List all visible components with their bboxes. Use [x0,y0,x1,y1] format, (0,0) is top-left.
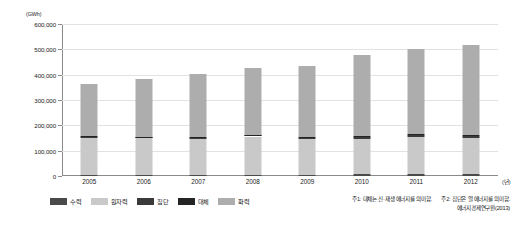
stacked-bar[interactable] [462,45,479,176]
bar-group [226,24,281,176]
x-tick-label: 2006 [117,178,172,185]
bar-segment-원자력 [353,139,370,175]
bar-segment-화력 [135,79,152,136]
stacked-bar[interactable] [244,68,261,176]
bar-group [335,24,390,176]
legend-swatch-icon [137,198,154,205]
legend-item-원자력[interactable]: 원자력 [91,197,128,206]
bar-segment-원자력 [135,138,152,174]
x-tick-label: 2011 [389,178,444,185]
legend-swatch-icon [91,198,108,205]
bar-segment-수력 [462,174,479,176]
bar-segment-집단 [81,137,98,138]
bar-group [117,24,172,176]
bar-group [444,24,499,176]
bar-segment-수력 [190,175,207,176]
x-tick-label: 2010 [335,178,390,185]
bar-segment-집단 [190,138,207,139]
stacked-bar[interactable] [353,55,370,176]
plot-area: 0100,000200,000300,000400,000500,000600,… [62,24,498,176]
y-tick-mark [58,176,62,177]
y-tick-label: 500,000 [34,46,56,53]
legend-item-대체[interactable]: 대체 [178,197,210,206]
bar-segment-수력 [408,174,425,176]
bar-segment-원자력 [408,137,425,174]
bar-segment-수력 [135,175,152,176]
bar-segment-원자력 [299,139,316,175]
x-tick-label: 2008 [226,178,281,185]
bar-segment-수력 [353,174,370,176]
bar-segment-원자력 [190,139,207,175]
bar-segment-집단 [353,137,370,139]
legend-swatch-icon [178,198,195,205]
y-tick-label: 600,000 [34,21,56,28]
bar-segment-대체 [299,137,316,138]
bar-segment-대체 [353,136,370,137]
chart-legend: 수력원자력집단대체화력 [50,197,250,206]
bar-segment-수력 [244,175,261,176]
bar-segment-화력 [353,55,370,137]
x-tick-label: 2007 [171,178,226,185]
bar-segment-집단 [244,135,261,136]
note-1: 주1: 대체는 신·재생 에너지를 의미함. [352,196,432,202]
legend-label: 집단 [157,197,169,206]
bar-segment-대체 [244,135,261,136]
legend-label: 수력 [70,197,82,206]
x-tick-label: 2012 [444,178,499,185]
stacked-bar[interactable] [190,74,207,176]
x-axis-unit-label: (년) [502,178,511,186]
y-tick-label: 200,000 [34,122,56,129]
bar-group [389,24,444,176]
legend-swatch-icon [218,198,235,205]
bar-segment-집단 [462,136,479,138]
bar-segment-대체 [462,135,479,136]
bar-segment-화력 [462,45,479,134]
bar-segment-수력 [299,175,316,176]
stacked-bar[interactable] [81,84,98,176]
bar-segment-화력 [408,49,425,134]
bar-group [62,24,117,176]
x-tick-label: 2009 [280,178,335,185]
bar-segment-수력 [81,175,98,176]
legend-label: 화력 [238,197,250,206]
note-2: 주2: 집단은 열 에너지를 의미함. [441,196,510,202]
legend-item-집단[interactable]: 집단 [137,197,169,206]
bar-segment-화력 [244,68,261,135]
legend-label: 원자력 [111,197,128,206]
legend-item-수력[interactable]: 수력 [50,197,82,206]
y-tick-label: 400,000 [34,71,56,78]
bar-segment-화력 [190,74,207,137]
chart-notes: 주1: 대체는 신·재생 에너지를 의미함. 주2: 집단은 열 에너지를 의미… [352,195,510,213]
bar-segment-원자력 [244,137,261,175]
stacked-bar[interactable] [299,66,316,176]
bar-segment-대체 [408,134,425,135]
bar-segment-원자력 [462,138,479,174]
bar-series-layer [62,24,498,176]
bar-segment-집단 [408,135,425,137]
chart-root: (GWh) 0100,000200,000300,000400,000500,0… [0,0,518,233]
y-tick-label: 300,000 [34,97,56,104]
bar-group [171,24,226,176]
y-tick-label: 0 [53,173,56,180]
y-tick-label: 100,000 [34,147,56,154]
x-tick-label: 2005 [62,178,117,185]
bar-segment-화력 [299,66,316,137]
legend-swatch-icon [50,198,67,205]
bar-segment-화력 [81,84,98,136]
bar-segment-원자력 [81,138,98,175]
y-axis-unit-label: (GWh) [26,11,41,17]
note-line: 주1: 대체는 신·재생 에너지를 의미함. 주2: 집단은 열 에너지를 의미… [352,195,510,204]
legend-item-화력[interactable]: 화력 [218,197,250,206]
bar-segment-집단 [135,137,152,138]
bar-segment-집단 [299,138,316,139]
stacked-bar[interactable] [135,79,152,176]
legend-label: 대체 [198,197,210,206]
stacked-bar[interactable] [408,49,425,176]
chart-source: 에너지경제연구원(2013) [352,204,510,213]
bar-group [280,24,335,176]
